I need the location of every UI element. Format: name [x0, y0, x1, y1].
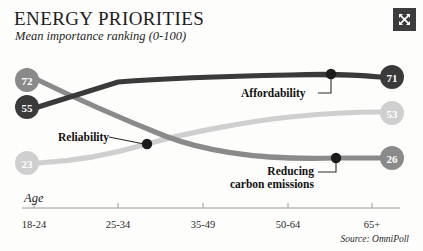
source-note: Source: OmniPoll: [340, 234, 409, 244]
series-label-reducing-carbon: Reducing carbon emissions: [224, 165, 314, 190]
leader-line-affordability: [318, 78, 331, 93]
series-label-reliability: Reliability: [58, 131, 109, 143]
energy-priorities-chart: ENERGY PRIORITIES Mean importance rankin…: [0, 0, 423, 251]
x-axis-title: Age: [24, 191, 43, 206]
value-badge-right-2-text: 26: [387, 153, 399, 165]
x-tick-label-50-64: 50-64: [276, 219, 301, 230]
series-label-affordability: Affordability: [241, 87, 306, 99]
series-label-reducing-carbon-line2: carbon emissions: [224, 178, 314, 191]
leader-line-reliability: [109, 137, 144, 144]
data-point-marker-reliability: [142, 139, 152, 149]
chart-plot-area: 72 55 23 71 53 26: [0, 0, 423, 251]
value-badge-right-1: 53: [380, 101, 404, 125]
value-badge-left-1: 55: [15, 95, 39, 119]
x-tick-label-65-plus: 65+: [364, 219, 380, 230]
value-badge-right-0-text: 71: [387, 72, 398, 84]
value-badge-right-1-text: 53: [387, 108, 399, 120]
series-label-reducing-carbon-line1: Reducing: [224, 165, 314, 178]
value-badge-left-1-text: 55: [22, 102, 34, 114]
x-tick-label-35-49: 35-49: [191, 219, 216, 230]
x-tick-label-18-24: 18-24: [22, 219, 47, 230]
value-badge-left-0-text: 72: [22, 75, 34, 87]
data-point-marker-affordability: [326, 69, 336, 79]
value-badge-right-0: 71: [380, 65, 404, 89]
value-badge-right-2: 26: [380, 146, 404, 170]
value-badge-left-2-text: 23: [22, 158, 34, 170]
value-badge-left-2: 23: [15, 151, 39, 175]
data-point-marker-reducing-carbon: [331, 153, 341, 163]
x-tick-label-25-34: 25-34: [106, 219, 131, 230]
leader-line-reducing-carbon: [318, 161, 336, 172]
value-badge-left-0: 72: [15, 68, 39, 92]
